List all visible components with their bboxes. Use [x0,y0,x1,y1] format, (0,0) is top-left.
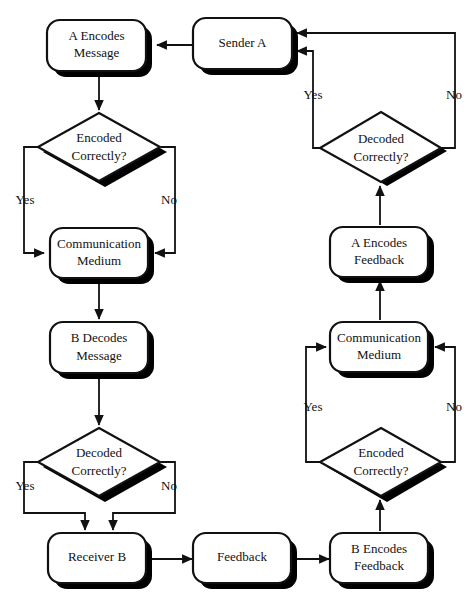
node-label-line1: Encoded [358,445,404,460]
node-label-line2: Feedback [354,558,404,573]
node-label-line2: Medium [357,347,401,362]
node-label-line2: Correctly? [354,149,409,164]
edge-label-encoded-left-yes: Yes [16,192,35,207]
node-feedback[interactable]: Feedback [193,533,297,589]
node-label-line2: Correctly? [72,148,127,163]
node-encoded-correctly-left[interactable]: Encoded Correctly? [38,113,167,187]
node-label-line1: B Decodes [71,330,128,345]
node-label-line1: A Encodes [69,28,125,43]
edge-label-decoded-right-yes: Yes [304,87,323,102]
node-label-line2: Correctly? [72,463,127,478]
node-communication-medium-left[interactable]: Communication Medium [50,228,154,284]
node-sender-a[interactable]: Sender A [193,18,298,75]
node-label-line1: A Encodes [351,235,407,250]
node-a-encodes-feedback[interactable]: A Encodes Feedback [330,227,434,283]
node-label-line1: Sender A [218,35,267,50]
edge-label-encoded-right-yes: Yes [304,399,323,414]
node-label-line1: B Encodes [351,541,407,556]
node-label-line1: Receiver B [68,549,126,564]
node-label-line1: Communication [57,236,141,251]
edge-label-decoded-right-no: No [446,87,462,102]
node-label-line1: Decoded [358,131,405,146]
node-b-decodes-message[interactable]: B Decodes Message [50,322,154,379]
node-b-encodes-feedback[interactable]: B Encodes Feedback [330,533,434,589]
node-communication-medium-right[interactable]: Communication Medium [330,322,434,378]
node-a-encodes-message[interactable]: A Encodes Message [47,20,152,77]
node-label-line2: Message [74,45,120,60]
node-label-line1: Decoded [76,445,123,460]
node-decoded-correctly-left[interactable]: Decoded Correctly? [38,428,167,502]
flowchart-canvas: A Encodes Message Sender A Encoded Corre… [0,0,476,606]
node-label-line2: Medium [77,253,121,268]
node-label-line2: Correctly? [354,463,409,478]
node-label-line1: Feedback [217,549,267,564]
node-label-line1: Communication [337,330,421,345]
edge-label-decoded-left-yes: Yes [16,478,35,493]
edge-label-encoded-right-no: No [446,399,462,414]
node-encoded-correctly-right[interactable]: Encoded Correctly? [320,428,447,502]
node-label-line2: Feedback [354,252,404,267]
node-label-line2: Message [76,348,122,363]
edge-label-encoded-left-no: No [161,192,177,207]
edge-label-decoded-left-no: No [161,478,177,493]
flowchart-svg: A Encodes Message Sender A Encoded Corre… [0,0,476,606]
node-decoded-correctly-right[interactable]: Decoded Correctly? [320,112,447,186]
node-receiver-b[interactable]: Receiver B [48,533,152,589]
node-shape [320,112,441,182]
node-label-line1: Encoded [76,130,122,145]
